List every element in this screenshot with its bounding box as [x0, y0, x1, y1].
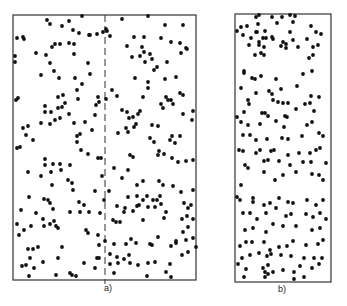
data-point — [237, 148, 241, 152]
data-point — [41, 260, 45, 264]
data-point — [141, 95, 145, 99]
panel-b — [235, 13, 331, 282]
data-point — [270, 15, 274, 19]
data-point — [103, 239, 107, 243]
data-point — [286, 101, 290, 105]
data-point — [191, 236, 195, 240]
data-point — [266, 263, 270, 267]
data-point — [277, 196, 281, 200]
data-point — [310, 266, 314, 270]
data-point — [71, 188, 75, 192]
point-pattern-figure — [0, 0, 347, 306]
data-point — [130, 55, 134, 59]
data-point — [59, 168, 63, 172]
data-point — [178, 41, 182, 45]
data-point — [158, 194, 162, 198]
data-point — [280, 15, 284, 19]
data-point — [247, 102, 251, 106]
data-point — [27, 274, 31, 278]
data-point — [236, 262, 240, 266]
data-point — [24, 263, 28, 267]
data-point — [61, 93, 65, 97]
data-point — [58, 116, 62, 120]
data-point — [309, 24, 313, 28]
data-point — [312, 256, 316, 260]
data-point — [108, 34, 112, 38]
data-point — [82, 261, 86, 265]
data-point — [145, 194, 149, 198]
data-point — [146, 261, 150, 265]
data-point — [128, 261, 132, 265]
data-point — [126, 168, 130, 172]
data-point — [135, 204, 139, 208]
data-point — [136, 263, 140, 267]
data-point — [311, 215, 315, 219]
data-point — [56, 95, 60, 99]
data-point — [95, 32, 99, 36]
data-point — [74, 274, 78, 278]
data-point — [239, 120, 243, 124]
data-point — [97, 100, 101, 104]
data-point — [284, 42, 288, 46]
data-point — [286, 137, 290, 141]
data-point — [171, 184, 175, 188]
data-point — [317, 173, 321, 177]
data-point — [280, 136, 284, 140]
data-point — [116, 261, 120, 265]
data-point — [88, 72, 92, 76]
data-point — [48, 122, 52, 126]
data-point — [80, 82, 84, 86]
data-point — [303, 102, 307, 106]
data-point — [170, 134, 174, 138]
data-point — [244, 240, 248, 244]
data-point — [262, 45, 266, 49]
data-point — [67, 19, 71, 23]
data-point — [297, 151, 301, 155]
data-point — [146, 14, 150, 18]
data-point — [53, 118, 57, 122]
data-point — [159, 102, 163, 106]
data-point — [114, 220, 118, 224]
data-point — [135, 183, 139, 187]
data-point — [122, 210, 126, 214]
data-point — [150, 57, 154, 61]
data-point — [78, 132, 82, 136]
data-point — [164, 210, 168, 214]
data-point — [302, 256, 306, 260]
data-point — [67, 41, 71, 45]
data-point — [307, 56, 311, 60]
data-point — [262, 159, 266, 163]
data-point — [318, 146, 322, 150]
data-point — [125, 44, 129, 48]
data-point — [122, 257, 126, 261]
data-point — [22, 37, 26, 41]
data-point — [191, 188, 195, 192]
data-point — [317, 95, 321, 99]
data-point — [151, 198, 155, 202]
data-point — [132, 35, 136, 39]
data-point — [26, 124, 30, 128]
data-point — [291, 38, 295, 42]
data-point — [51, 162, 55, 166]
data-point — [48, 222, 52, 226]
data-point — [279, 253, 283, 257]
data-point — [156, 235, 160, 239]
data-point — [286, 153, 290, 157]
data-point — [68, 210, 72, 214]
data-point — [243, 163, 247, 167]
data-point — [281, 268, 285, 272]
data-point — [170, 156, 174, 160]
data-point — [318, 226, 322, 230]
data-point — [93, 189, 97, 193]
data-point — [26, 247, 30, 251]
data-point — [126, 130, 130, 134]
data-point — [295, 84, 299, 88]
data-point — [184, 238, 188, 242]
data-point — [282, 125, 286, 129]
data-point — [36, 245, 40, 249]
data-point — [171, 102, 175, 106]
data-point — [257, 43, 261, 47]
data-point — [168, 262, 172, 266]
data-point — [161, 183, 165, 187]
data-point — [76, 97, 80, 101]
